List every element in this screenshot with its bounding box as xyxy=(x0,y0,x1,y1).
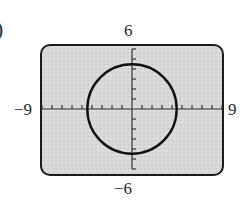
graphing-calculator-screen xyxy=(0,0,246,203)
